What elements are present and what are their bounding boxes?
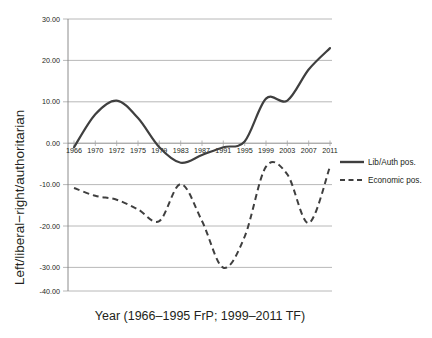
- y-tick-label: -10.00: [40, 180, 60, 189]
- y-tick-label: -20.00: [40, 222, 60, 231]
- x-tick-label: 1999: [258, 146, 274, 155]
- y-axis-title: Left/liberal−right/authoritarian: [12, 110, 27, 285]
- y-axis-tickmarks: [63, 19, 68, 291]
- line-chart-svg: 30.00 20.00 10.00 0.00 -10.00 -20.00 -30…: [0, 0, 432, 338]
- x-tick-label: 2011: [322, 146, 337, 155]
- y-tick-label: 10.00: [42, 97, 60, 106]
- y-axis-tick-labels: 30.00 20.00 10.00 0.00 -10.00 -20.00 -30…: [40, 15, 60, 296]
- x-tick-label: 1983: [173, 146, 189, 155]
- chart-legend: Lib/Auth pos. Economic pos.: [340, 158, 422, 185]
- cropped-figure-caption: [95, 0, 315, 8]
- x-tick-label: 2007: [301, 146, 317, 155]
- y-tick-label: 30.00: [42, 15, 60, 24]
- x-axis-tick-labels: 1966 1970 1972 1975 1979 1983 1987 1991 …: [66, 146, 338, 155]
- legend-label-lib-auth-pos: Lib/Auth pos.: [368, 158, 416, 167]
- x-tick-label: 1975: [130, 146, 146, 155]
- y-tick-label: -40.00: [40, 287, 60, 296]
- x-axis-title: Year (1966–1995 FrP; 1999–2011 TF): [95, 309, 305, 323]
- chart-container: 30.00 20.00 10.00 0.00 -10.00 -20.00 -30…: [0, 0, 432, 338]
- y-tick-label: 0.00: [46, 139, 60, 148]
- legend-label-economic-pos: Economic pos.: [368, 176, 422, 185]
- y-tick-label: 20.00: [42, 56, 60, 65]
- series-line-economic-pos: [74, 162, 330, 268]
- x-tick-label: 1972: [109, 146, 125, 155]
- x-tick-label: 1995: [237, 146, 253, 155]
- x-tick-label: 1970: [87, 146, 103, 155]
- x-tick-label: 2003: [279, 146, 295, 155]
- y-tick-label: -30.00: [40, 263, 60, 272]
